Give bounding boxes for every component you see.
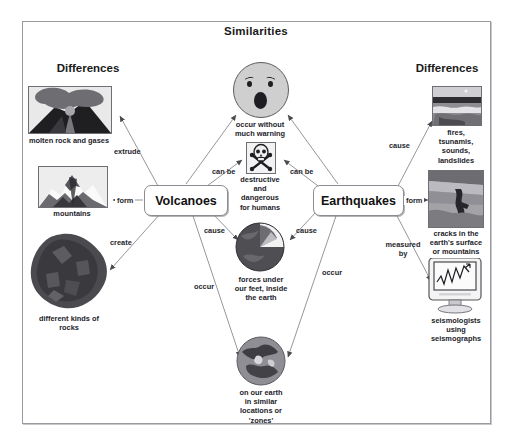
caption-destructive: destructive and dangerous for humans <box>222 175 298 212</box>
caption-seismologists: seismologists using seismographs <box>416 316 496 344</box>
edge-label-form-right: form <box>404 196 424 205</box>
skull-crossbones-icon <box>246 142 276 174</box>
erupting-volcano-photo <box>28 86 112 134</box>
edge-label-can-be-left: can be <box>212 167 235 176</box>
tsunami-photo <box>432 86 482 126</box>
diagram-canvas: Similarities Differences Differences <box>0 0 512 444</box>
edge-label-cause-right: cause <box>389 141 410 150</box>
caption-molten-rock: molten rock and gases <box>12 136 126 145</box>
ground-crack-photo <box>428 170 484 228</box>
earth-cutaway-icon <box>233 222 287 272</box>
caption-rocks: different kinds of rocks <box>10 314 128 332</box>
earth-globe-icon <box>236 336 286 386</box>
caption-forces-under-feet: forces under our feet, inside the earth <box>218 275 304 303</box>
rock-photo <box>28 232 112 312</box>
caption-occur-without-warning: occur without much warning <box>218 120 302 138</box>
edge-label-form-left: form <box>115 196 135 205</box>
node-earthquakes-label: Earthquakes <box>321 194 396 208</box>
edge-label-cause-left: cause <box>204 226 225 235</box>
caption-on-our-earth: on our earth in similar locations or 'zo… <box>216 388 306 425</box>
edge-label-occur-right: occur <box>322 268 342 277</box>
diagram-title: Similarities <box>0 25 512 37</box>
caption-fires: fires, tsunamis, sounds, landslides <box>418 128 494 165</box>
node-earthquakes[interactable]: Earthquakes <box>313 185 404 216</box>
node-volcanoes[interactable]: Volcanoes <box>144 185 228 216</box>
node-volcanoes-label: Volcanoes <box>155 194 217 208</box>
edge-label-measured-by: measured by <box>378 240 428 258</box>
seismograph-monitor-photo <box>425 258 485 314</box>
caption-mountains: mountains <box>28 209 116 218</box>
edge-label-create: create <box>110 238 132 247</box>
mountain-photo <box>38 166 108 208</box>
edge-label-occur-left: occur <box>194 282 214 291</box>
edge-label-can-be-right: can be <box>290 167 313 176</box>
surprised-face-icon <box>233 62 289 118</box>
right-differences-heading: Differences <box>392 62 502 74</box>
edge-label-extrude: extrude <box>114 147 141 156</box>
left-differences-heading: Differences <box>28 62 148 74</box>
edge-label-cause-center-right: cause <box>296 226 317 235</box>
